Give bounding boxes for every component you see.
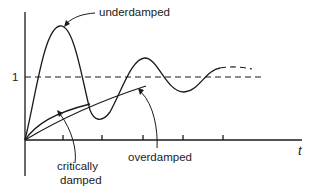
critically-damped-label-line1: critically xyxy=(57,160,98,172)
overdamped-curve xyxy=(25,86,146,140)
underdamped-curve-continuation xyxy=(220,67,252,69)
damping-response-diagram: 1 underdamped critically damped overdamp… xyxy=(0,0,319,196)
x-axis-label: t xyxy=(298,143,303,158)
overdamped-label: overdamped xyxy=(128,151,192,163)
critically-damped-leader xyxy=(60,114,75,163)
arrowhead-icon xyxy=(57,110,63,117)
underdamped-leader xyxy=(67,13,95,23)
critically-damped-label-line2: damped xyxy=(60,174,102,186)
x-axis-ticks xyxy=(63,135,223,140)
underdamped-curve xyxy=(25,26,220,140)
y-reference-label: 1 xyxy=(12,71,18,83)
underdamped-label: underdamped xyxy=(99,6,170,18)
